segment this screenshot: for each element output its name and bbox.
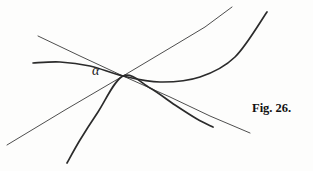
figure-container: α Fig. 26. xyxy=(0,0,313,171)
angle-alpha-label: α xyxy=(92,64,99,78)
figure-caption: Fig. 26. xyxy=(252,102,291,115)
curve-canvas xyxy=(0,0,313,171)
figure-background xyxy=(0,0,313,171)
